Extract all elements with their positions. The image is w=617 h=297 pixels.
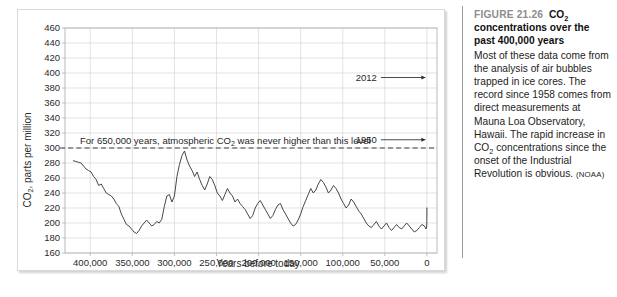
y-tick-360: 360 bbox=[44, 97, 60, 108]
threshold-label-text-1: For 650,000 years, atmospheric CO bbox=[80, 135, 231, 146]
y-tick-260: 260 bbox=[44, 172, 60, 183]
y-tick-440: 440 bbox=[44, 37, 60, 48]
annotation-arrowhead-2012 bbox=[421, 76, 425, 80]
plot-area-wrapper: 1601802002202402602803003203403603804004… bbox=[18, 10, 444, 270]
threshold-label: For 650,000 years, atmospheric CO2 was n… bbox=[80, 135, 371, 147]
y-axis-title: CO2, parts per million bbox=[22, 112, 34, 207]
co2-data-line bbox=[73, 151, 426, 234]
y-tick-340: 340 bbox=[44, 112, 60, 123]
y-tick-300: 300 bbox=[44, 142, 60, 153]
y-axis-title-rest: , parts per million bbox=[22, 112, 33, 188]
x-tick-50000: 50,000 bbox=[370, 257, 399, 268]
co2-line-chart: 1601802002202402602803003203403603804004… bbox=[18, 10, 446, 272]
y-tick-460: 460 bbox=[44, 22, 60, 33]
annotation-arrowhead-1950 bbox=[421, 138, 425, 142]
y-tick-160: 160 bbox=[44, 247, 60, 258]
caption-credit: (NOAA) bbox=[576, 170, 605, 179]
chart-annotations: 20121950 bbox=[356, 72, 426, 145]
caption-divider-rule bbox=[462, 6, 463, 258]
y-axis-tick-labels: 1601802002202402602803003203403603804004… bbox=[44, 22, 65, 258]
y-axis-title-co: CO bbox=[22, 192, 33, 207]
figure-title-co: CO bbox=[549, 9, 564, 20]
y-tick-180: 180 bbox=[44, 232, 60, 243]
annotation-label-1950: 1950 bbox=[356, 134, 377, 145]
annotation-label-2012: 2012 bbox=[356, 72, 377, 83]
threshold-line-300ppm: For 650,000 years, atmospheric CO2 was n… bbox=[60, 135, 437, 149]
figure-root: 1601802002202402602803003203403603804004… bbox=[0, 0, 617, 297]
y-tick-320: 320 bbox=[44, 127, 60, 138]
figure-caption: FIGURE 21.26 CO2 concentrations over the… bbox=[474, 8, 612, 182]
x-axis-title: Years before today bbox=[216, 258, 300, 269]
y-tick-240: 240 bbox=[44, 187, 60, 198]
figure-title-rest: concentrations over the past 400,000 yea… bbox=[474, 22, 590, 46]
y-tick-200: 200 bbox=[44, 217, 60, 228]
x-tick-0: 0 bbox=[424, 257, 429, 268]
chart-panel: 1601802002202402602803003203403603804004… bbox=[17, 9, 445, 271]
caption-body-text-1: Most of these data come from the analysi… bbox=[474, 50, 611, 153]
series-line-co2 bbox=[73, 151, 426, 234]
caption-heading: FIGURE 21.26 CO2 concentrations over the… bbox=[474, 8, 612, 48]
caption-body: Most of these data come from the analysi… bbox=[474, 49, 612, 182]
threshold-label-text-2: was never higher than this level bbox=[235, 135, 371, 146]
y-tick-420: 420 bbox=[44, 52, 60, 63]
figure-number: FIGURE 21.26 bbox=[474, 9, 543, 20]
x-tick-300000: 300,000 bbox=[157, 257, 191, 268]
y-tick-280: 280 bbox=[44, 157, 60, 168]
y-tick-380: 380 bbox=[44, 82, 60, 93]
y-tick-400: 400 bbox=[44, 67, 60, 78]
x-tick-400000: 400,000 bbox=[73, 257, 107, 268]
x-tick-100000: 100,000 bbox=[326, 257, 360, 268]
x-tick-350000: 350,000 bbox=[115, 257, 149, 268]
y-tick-220: 220 bbox=[44, 202, 60, 213]
